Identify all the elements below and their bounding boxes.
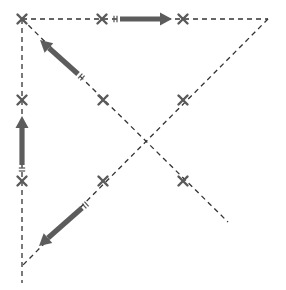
x-center-right-cross-icon (179, 96, 188, 105)
path-diagram (0, 0, 286, 290)
arrow-right-icon (114, 13, 172, 26)
arrow-up-left-icon (40, 40, 85, 80)
arrow-up-icon (16, 116, 29, 171)
x-center-left-cross-icon (99, 96, 108, 105)
arrow-down-left-icon (39, 202, 89, 246)
diagram-svg (0, 0, 286, 290)
direction-arrows (16, 13, 173, 247)
